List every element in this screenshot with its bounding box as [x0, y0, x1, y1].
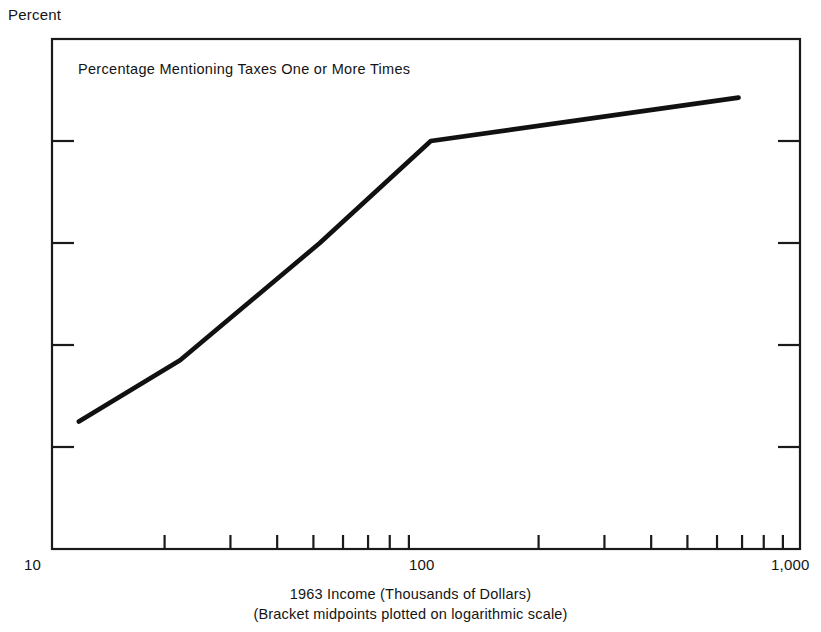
- x-tick-label-1000: 1,000: [771, 556, 810, 573]
- x-axis-caption-line1: 1963 Income (Thousands of Dollars): [0, 586, 821, 602]
- y-axis-title: Percent: [8, 6, 61, 23]
- data-series-line: [79, 98, 739, 422]
- chart-figure: Percent Percentage Mentioning Taxes One …: [0, 0, 821, 632]
- x-tick-label-10: 10: [24, 556, 41, 573]
- plot-frame: [52, 39, 800, 549]
- x-axis-caption-line2: (Bracket midpoints plotted on logarithmi…: [0, 606, 821, 622]
- plot-title: Percentage Mentioning Taxes One or More …: [78, 61, 410, 77]
- line-chart-canvas: [0, 0, 821, 632]
- x-tick-label-100: 100: [409, 556, 435, 573]
